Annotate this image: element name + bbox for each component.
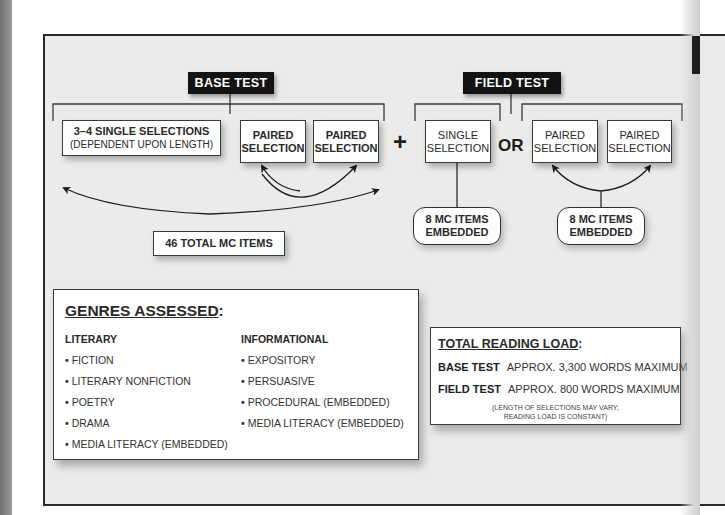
literary-item: •DRAMA [65,417,110,429]
field-single-embedded-pill: 8 MC ITEMS EMBEDDED [413,207,501,245]
field-paired-embedded-pill: 8 MC ITEMS EMBEDDED [557,207,645,245]
base-paired-selection-1: PAIRED SELECTION [240,120,306,163]
informational-item: •PROCEDURAL (EMBEDDED) [241,396,390,408]
plus-operator: + [393,128,407,156]
field-paired-selection-1: PAIRED SELECTION [532,120,598,163]
literary-item: •FICTION [65,354,114,366]
informational-item: •MEDIA LITERACY (EMBEDDED) [241,417,404,429]
single-selections-box: 3–4 SINGLE SELECTIONS (DEPENDENT UPON LE… [62,120,221,156]
base-test-reading-load: BASE TESTAPPROX. 3,300 WORDS MAXIMUM [438,361,688,373]
informational-heading: INFORMATIONAL [241,333,328,345]
genres-title: GENRES ASSESSED: [65,302,224,320]
page-edge-tab [692,36,700,74]
field-test-reading-load: FIELD TESTAPPROX. 800 WORDS MAXIMUM [438,383,680,395]
reading-load-title: TOTAL READING LOAD: [438,337,582,351]
base-paired-selection-2: PAIRED SELECTION [313,120,379,163]
field-paired-selection-2: PAIRED SELECTION [607,120,672,163]
literary-item: •LITERARY NONFICTION [65,375,191,387]
field-test-label: FIELD TEST [463,72,561,94]
literary-item: •MEDIA LITERACY (EMBEDDED) [65,438,228,450]
literary-heading: LITERARY [65,333,117,345]
genres-assessed-panel: GENRES ASSESSED: LITERARY •FICTION •LITE… [53,289,419,460]
page-edge-shadow [680,0,700,515]
reading-load-note: (LENGTH OF SELECTIONS MAY VARY; READING … [431,403,680,421]
total-reading-load-panel: TOTAL READING LOAD: BASE TESTAPPROX. 3,3… [430,327,681,425]
informational-item: •EXPOSITORY [241,354,316,366]
or-operator: OR [498,136,524,156]
literary-item: •POETRY [65,396,115,408]
total-mc-items-box: 46 TOTAL MC ITEMS [153,231,285,256]
informational-item: •PERSUASIVE [241,375,315,387]
base-test-label: BASE TEST [188,72,274,94]
field-single-selection-box: SINGLE SELECTION [425,120,491,163]
